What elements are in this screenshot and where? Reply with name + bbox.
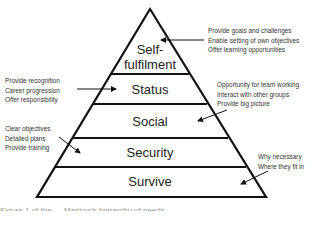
annotation-line: Career progression: [5, 86, 60, 96]
annotation-survive: Why necessary Where they fit in: [258, 152, 304, 171]
annotation-line: Where they fit in: [258, 162, 304, 172]
annotation-status: Provide recognition Career progression O…: [5, 76, 60, 105]
level-self-fulfilment-line2: fulfilment: [110, 57, 190, 72]
annotation-line: Why necessary: [258, 152, 304, 162]
annotation-line: Provide goals and challenges: [208, 26, 299, 36]
figure-caption: Figure 1 of the … Maslow's hierarchy of …: [0, 206, 165, 211]
annotation-line: Detailed plans: [5, 134, 50, 144]
annotation-line: Provide big picture: [217, 99, 299, 109]
level-social: Social: [110, 114, 190, 129]
annotation-line: Clear objectives: [5, 124, 50, 134]
annotation-line: Interact with other groups: [217, 90, 299, 100]
annotation-line: Enable setting of own objectives: [208, 36, 299, 46]
level-self-fulfilment: Self- fulfilment: [110, 42, 190, 72]
annotation-social: Opportunity for team working Interact wi…: [217, 80, 299, 109]
level-status: Status: [110, 82, 190, 97]
level-survive: Survive: [110, 174, 190, 189]
annotation-line: Opportunity for team working: [217, 80, 299, 90]
annotation-security: Clear objectives Detailed plans Provide …: [5, 124, 50, 153]
annotation-self-fulfilment: Provide goals and challenges Enable sett…: [208, 26, 299, 55]
annotation-line: Provide recognition: [5, 76, 60, 86]
level-security: Security: [110, 145, 190, 160]
arrow-survive: [241, 171, 268, 184]
level-self-fulfilment-line1: Self-: [110, 42, 190, 57]
annotation-line: Provide training: [5, 143, 50, 153]
annotation-line: Offer learning opportunities: [208, 45, 299, 55]
arrow-security: [59, 137, 80, 153]
annotation-line: Offer responsibility: [5, 95, 60, 105]
